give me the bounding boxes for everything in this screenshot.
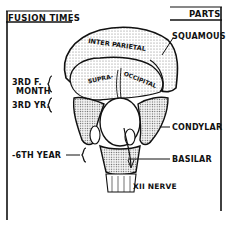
part-condylar-label: CONDYLAR <box>172 123 222 132</box>
parts-header: PARTS <box>189 9 221 19</box>
nerve-xii-label: XII NERVE <box>133 182 177 191</box>
fusion-time-3rd-yr: 3RD YR. <box>12 101 50 110</box>
fusion-time-3rd-f-month: 3RD F. MONTH <box>12 78 51 96</box>
part-squamous-label: SQUAMOUS <box>172 32 226 41</box>
part-basilar-label: BASILAR <box>172 155 212 164</box>
fusion-times-header: FUSION TIMES <box>8 13 80 23</box>
right-condylar <box>138 97 168 144</box>
fusion-time-6th-year: -6TH YEAR <box>12 151 61 160</box>
